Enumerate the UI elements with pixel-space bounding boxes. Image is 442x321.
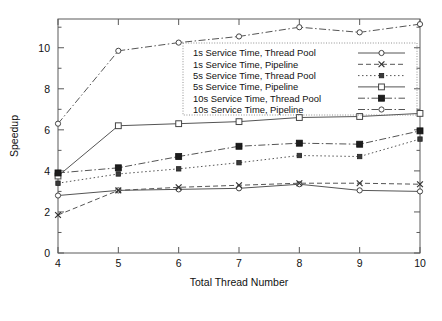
data-point [297,25,302,30]
legend-marker-sample [379,95,385,101]
data-point [116,172,120,176]
data-point [357,114,363,120]
data-point [115,123,121,129]
data-point [237,160,241,164]
data-point [176,154,182,160]
x-tick-label: 6 [176,257,182,269]
x-tick-label: 9 [357,257,363,269]
y-tick-label: 4 [44,165,50,177]
legend: 1s Service Time, Thread Pool1s Service T… [183,43,417,115]
legend-label: 1s Service Time, Thread Pool [193,47,316,58]
series-1 [55,180,423,218]
legend-marker-sample [379,107,384,112]
x-tick-label: 8 [296,257,302,269]
data-point [417,189,422,194]
data-point [417,22,422,27]
data-point [116,48,121,53]
y-tick-label: 0 [44,247,50,259]
x-tick-label: 7 [236,257,242,269]
data-point [357,154,361,158]
data-point [417,128,423,134]
legend-label: 1s Service Time, Pipeline [193,59,298,70]
data-point [418,137,422,141]
y-tick-label: 10 [38,42,50,54]
legend-label: 10s Service Time, Thread Pool [193,93,321,104]
speedup-line-chart: 024681045678910Total Thread NumberSpeedu… [0,0,442,321]
data-point [176,121,182,127]
data-point [176,40,181,45]
y-tick-label: 8 [44,83,50,95]
series-line [58,131,420,173]
data-point [56,181,60,185]
data-point [55,193,60,198]
y-axis-title: Speedup [8,115,20,157]
legend-marker-sample [379,73,383,77]
data-point [115,165,121,171]
series-0 [55,182,422,198]
legend-marker-sample [379,50,384,55]
y-tick-label: 6 [44,124,50,136]
data-point [55,170,61,176]
data-point [296,115,302,121]
data-point [357,30,362,35]
x-tick-label: 5 [115,257,121,269]
chart-canvas: 024681045678910Total Thread NumberSpeedu… [0,0,442,321]
x-tick-label: 4 [55,257,61,269]
legend-label: 10s Service Time, Pipeline [193,104,303,115]
series-4 [55,128,423,176]
legend-label: 5s Service Time, Thread Pool [193,70,316,81]
legend-label: 5s Service Time, Pipeline [193,81,298,92]
y-tick-label: 2 [44,206,50,218]
data-point [236,34,241,39]
data-point [417,111,423,117]
data-point [176,167,180,171]
legend-marker-sample [379,84,385,90]
data-point [297,153,301,157]
data-point [236,119,242,125]
data-point [357,141,363,147]
x-tick-label: 10 [414,257,426,269]
data-point [55,121,60,126]
data-point [296,140,302,146]
data-point [357,188,362,193]
data-point [236,143,242,149]
x-axis-title: Total Thread Number [190,276,289,288]
